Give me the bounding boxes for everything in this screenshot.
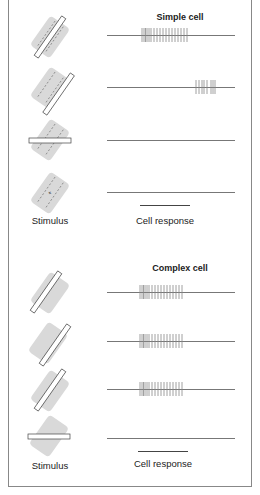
simple-response-line-4 [107,192,235,193]
complex-stimulus-label: Stimulus [10,460,90,471]
complex-spikes-3 [138,382,193,398]
simple-response-label: Cell response [125,215,205,226]
complex-stimulus-4 [27,414,73,460]
simple-timescale-bar [140,205,190,206]
complex-spikes-2 [138,334,193,350]
complex-cell-title: Complex cell [130,263,230,273]
complex-timescale-bar [138,451,188,452]
simple-response-line-3 [107,140,235,141]
simple-spikes-1 [140,28,200,44]
simple-cell-title: Simple cell [130,12,230,22]
complex-spikes-1 [138,285,193,301]
complex-response-label: Cell response [123,458,203,469]
simple-stimulus-3 [28,118,74,162]
complex-stimulus-2 [28,318,72,368]
complex-stimulus-1 [28,268,72,318]
simple-stimulus-label: Stimulus [10,215,90,226]
simple-stimulus-4: + [30,170,70,216]
complex-response-line-4 [107,438,235,439]
simple-stimulus-2 [30,63,70,113]
complex-stimulus-3 [28,366,72,416]
simple-stimulus-1 [30,12,70,62]
simple-spikes-2 [195,80,225,96]
